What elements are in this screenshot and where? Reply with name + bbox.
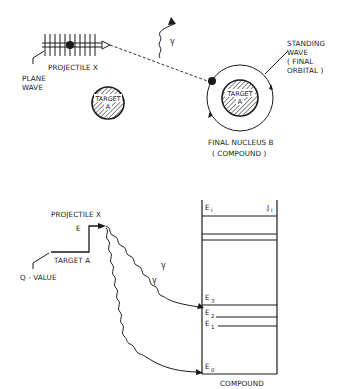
projectile-label-bottom: PROJECTILE X [51, 210, 101, 219]
level-label-e2: E [205, 308, 210, 317]
level-spin-sub-ji: i [271, 207, 273, 213]
energy-label: E [76, 224, 81, 233]
level-label-e3: E [205, 293, 210, 302]
standing-wave-label-line4: ORBITAL ) [287, 66, 324, 75]
plane-wave-group [33, 34, 110, 64]
gamma-label-1: γ [161, 261, 166, 270]
captured-particle [208, 77, 216, 85]
level-spin-ji: J [266, 203, 269, 212]
plane-wave-label-line1: PLANE [22, 74, 46, 83]
compound-nucleus-diagram: PROJECTILE X PLANE WAVE γ TARGET A TARGE… [0, 0, 339, 389]
projectile-label-top: PROJECTILE X [48, 63, 98, 72]
gamma-cascade-to-e0 [106, 228, 203, 375]
level-sub-e2: 2 [211, 313, 215, 319]
level-sub-e3: 3 [211, 298, 215, 304]
target-left-label-line2: A [106, 103, 111, 111]
standing-wave-label-line2: WAVE [287, 48, 308, 57]
target-right-label-line1: TARGET [226, 90, 252, 98]
level-label-e1: E [205, 319, 210, 328]
level-scheme-box [202, 200, 277, 374]
standing-wave-label-line1: STANDING [287, 39, 325, 48]
projectile-particle [66, 41, 74, 49]
level-label-ei: E [205, 203, 210, 212]
target-left-label-line1: TARGET [94, 95, 120, 103]
trajectory-dashed-line [110, 45, 210, 82]
final-nucleus-orbit: TARGET A [207, 51, 288, 131]
level-sub-ei: i [211, 207, 213, 213]
gamma-cascade-to-e3 [106, 226, 204, 309]
final-nucleus-label-line1: FINAL NUCLEUS B [208, 138, 274, 147]
gamma-label-2: γ [152, 276, 157, 285]
level-label-e0: E [205, 362, 210, 371]
target-a-left: TARGET A [92, 87, 124, 119]
compound-nucleus-label-line1: COMPOUND [220, 379, 264, 388]
target-a-label-bottom: TARGET A [53, 256, 90, 265]
target-right-label-line2: A [238, 98, 243, 106]
plane-wave-label-line2: WAVE [22, 83, 43, 92]
level-sub-e0: 0 [211, 367, 215, 373]
standing-wave-label-line3: ( FINAL [287, 57, 313, 66]
gamma-label-top: γ [170, 37, 175, 46]
level-sub-e1: 1 [211, 324, 215, 330]
q-value-label: Q - VALUE [20, 273, 57, 282]
final-nucleus-label-line2: ( COMPOUND ) [212, 149, 267, 158]
arrowhead-open-icon [102, 41, 110, 49]
orbit-arrow-icon [208, 111, 212, 118]
orbit-arrow-icon [269, 84, 273, 90]
